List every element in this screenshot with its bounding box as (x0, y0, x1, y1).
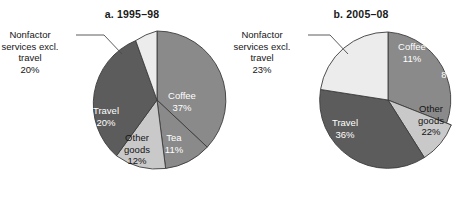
panel-b-other-goods-label: Other goods 22% (408, 103, 454, 138)
panel-b-travel-pct: 36% (322, 129, 368, 141)
panel-a-other-goods-pct: 12% (116, 155, 158, 167)
panel-b-nonfactor-pct: 23% (252, 64, 271, 75)
slice-nonfactor-services-b (321, 32, 388, 100)
panel-b-tea-label: Tea 8% (432, 57, 464, 80)
panel-b-nonfactor-line2: services excl. (233, 41, 290, 52)
panel-a-travel-name: Travel (93, 105, 119, 116)
panel-a-tea-label: Tea 11% (157, 132, 191, 155)
panel-a-leader-line (76, 35, 122, 54)
panel-a-coffee-pct: 37% (155, 102, 209, 114)
pie-chart-figure: a. 1995–98 Nonfactor services excl. trav… (0, 0, 472, 216)
panel-b-nonfactor-line1: Nonfactor (241, 29, 282, 40)
panel-a-travel-label: Travel 20% (84, 105, 128, 128)
panel-a-nonfactor-pct: 20% (20, 64, 39, 75)
panel-b-coffee-label: Coffee 11% (388, 41, 436, 64)
panel-a-travel-pct: 20% (84, 117, 128, 129)
panel-b-other-goods-line1: Other (419, 103, 443, 114)
panel-a-tea-name: Tea (166, 132, 181, 143)
panel-b-tea-name: Tea (440, 57, 455, 68)
panel-a-tea-pct: 11% (157, 144, 191, 156)
panel-a-nonfactor-line2: services excl. (1, 41, 58, 52)
chart-panel-a: a. 1995–98 Nonfactor services excl. trav… (0, 0, 236, 216)
panel-a-nonfactor-line1: Nonfactor (9, 29, 50, 40)
panel-a-nonfactor-label: Nonfactor services excl. travel 20% (0, 29, 76, 75)
chart-panel-b: b. 2005–08 Nonfactor services excl. trav… (236, 0, 472, 216)
panel-a-coffee-label: Coffee 37% (155, 90, 209, 113)
panel-b-other-goods-pct: 22% (408, 126, 454, 138)
panel-b-travel-name: Travel (332, 117, 358, 128)
panel-a-other-goods-line2: goods (116, 144, 158, 156)
panel-a-nonfactor-line3: travel (18, 52, 41, 63)
panel-a-other-goods-label: Other goods 12% (116, 132, 158, 167)
panel-b-other-goods-line2: goods (408, 115, 454, 127)
panel-b-tea-pct: 8% (432, 69, 464, 81)
panel-a-other-goods-line1: Other (125, 132, 149, 143)
panel-b-nonfactor-label: Nonfactor services excl. travel 23% (216, 29, 308, 75)
panel-a-coffee-name: Coffee (168, 90, 196, 101)
panel-b-coffee-name: Coffee (398, 41, 426, 52)
panel-b-nonfactor-line3: travel (250, 52, 273, 63)
panel-b-travel-label: Travel 36% (322, 117, 368, 140)
panel-b-coffee-pct: 11% (388, 53, 436, 65)
